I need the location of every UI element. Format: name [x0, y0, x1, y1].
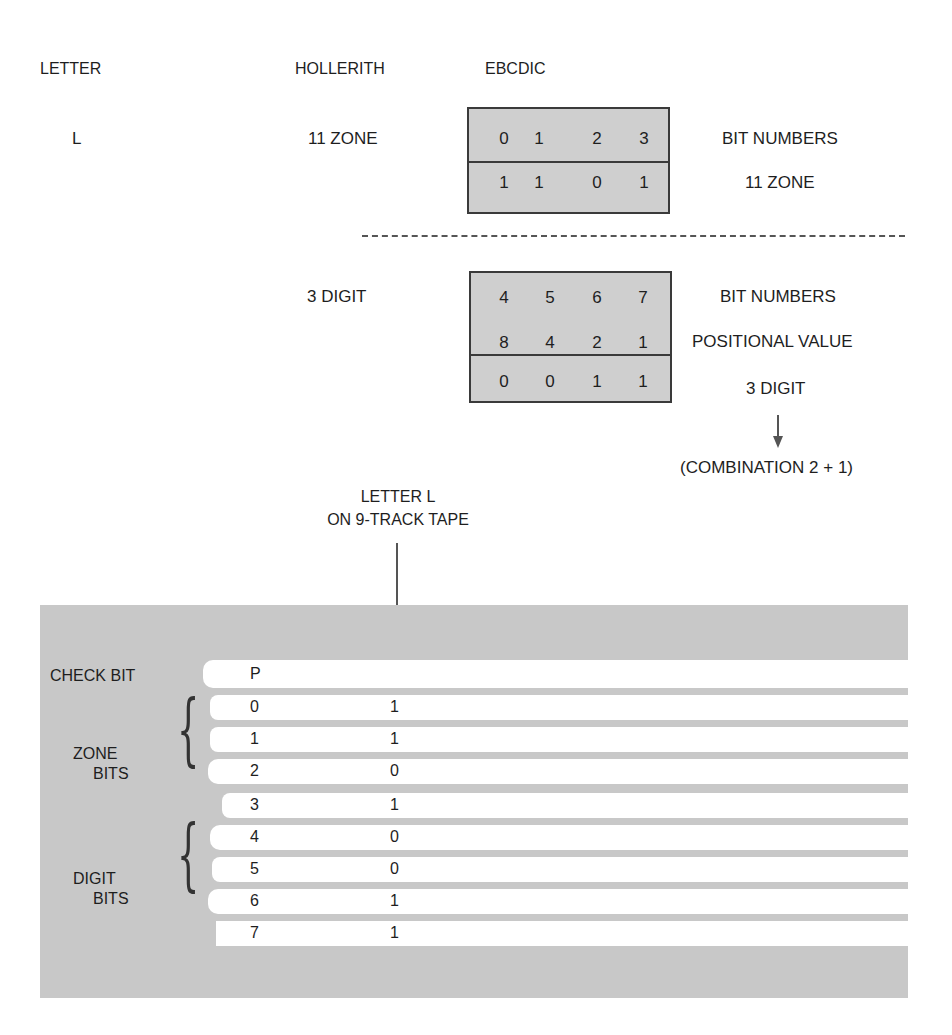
- track-p: P: [203, 660, 908, 688]
- header-letter: LETTER: [40, 60, 101, 78]
- track-bit-value: 1: [390, 892, 399, 910]
- down-arrow-icon: [773, 436, 783, 448]
- header-hollerith: HOLLERITH: [295, 60, 385, 78]
- digit-row-label-bit-numbers: BIT NUMBERS: [720, 287, 836, 307]
- cell: 1: [633, 333, 653, 353]
- hollerith-zone-label: 11 ZONE: [308, 129, 378, 149]
- cell: 3: [634, 129, 654, 149]
- track-bit-number: 1: [250, 730, 259, 748]
- cell: 8: [494, 333, 514, 353]
- box-divider: [471, 354, 670, 356]
- track-1: 1 1: [210, 727, 908, 752]
- cell: 1: [494, 173, 514, 193]
- track-bit-number: 6: [250, 892, 259, 910]
- track-2: 2 0: [208, 759, 908, 784]
- cell: 0: [540, 372, 560, 392]
- cell: 1: [634, 173, 654, 193]
- digit-row-label-positional-value: POSITIONAL VALUE: [692, 332, 853, 352]
- digit-bit-box: 4 5 6 7 8 4 2 1 0 0 1 1: [469, 271, 672, 403]
- digit-bit-values-row: 0 0 1 1: [471, 372, 670, 396]
- cell: 4: [494, 288, 514, 308]
- cell: 1: [529, 129, 549, 149]
- digit-row-label-3-digit: 3 DIGIT: [746, 379, 806, 399]
- hollerith-digit-label: 3 DIGIT: [307, 287, 367, 307]
- header-ebcdic: EBCDIC: [485, 60, 545, 78]
- zone-row-label-bit-numbers: BIT NUMBERS: [722, 129, 838, 149]
- track-bit-value: 0: [390, 762, 399, 780]
- cell: 0: [494, 372, 514, 392]
- zone-bits-label-line2: BITS: [93, 765, 129, 783]
- cell: 4: [540, 333, 560, 353]
- track-bit-number: 4: [250, 828, 259, 846]
- digit-bit-numbers-row: 4 5 6 7: [471, 288, 670, 312]
- cell: 1: [633, 372, 653, 392]
- track-bit-value: 0: [390, 828, 399, 846]
- cell: 0: [494, 129, 514, 149]
- track-bit-number: P: [250, 665, 261, 683]
- track-bit-number: 2: [250, 762, 259, 780]
- track-7: 7 1: [216, 921, 908, 946]
- track-bit-value: 0: [390, 860, 399, 878]
- zone-bit-numbers-row: 0 1 2 3: [469, 129, 668, 153]
- cell: 6: [587, 288, 607, 308]
- track-bit-number: 0: [250, 698, 259, 716]
- digit-bits-label-line2: BITS: [93, 890, 129, 908]
- cell: 1: [587, 372, 607, 392]
- down-arrow-shaft: [777, 415, 779, 437]
- dashed-separator: [362, 235, 905, 237]
- tape-caption-line1: LETTER L: [330, 488, 466, 506]
- zone-bit-box: 0 1 2 3 1 1 0 1: [467, 107, 670, 214]
- tape-caption-line2: ON 9-TRACK TAPE: [300, 511, 496, 529]
- track-3: 3 1: [222, 793, 908, 818]
- letter-value: L: [72, 129, 81, 149]
- cell: 7: [633, 288, 653, 308]
- zone-bits-label-line1: ZONE: [73, 745, 117, 763]
- zone-row-label-11-zone: 11 ZONE: [745, 173, 815, 193]
- digit-bits-brace-icon: {: [177, 815, 199, 893]
- track-bit-number: 7: [250, 924, 259, 942]
- zone-bits-brace-icon: {: [177, 690, 199, 768]
- track-bit-value: 1: [390, 924, 399, 942]
- track-6: 6 1: [208, 889, 908, 914]
- track-4: 4 0: [210, 825, 908, 850]
- track-5: 5 0: [212, 857, 908, 882]
- box-divider: [469, 161, 668, 163]
- cell: 0: [587, 173, 607, 193]
- track-bit-number: 5: [250, 860, 259, 878]
- cell: 2: [587, 333, 607, 353]
- track-bit-value: 1: [390, 796, 399, 814]
- nine-track-tape: CHECK BIT ZONE BITS { DIGIT BITS { P 0 1…: [40, 605, 908, 998]
- cell: 2: [587, 129, 607, 149]
- combination-note: (COMBINATION 2 + 1): [680, 458, 853, 478]
- digit-bits-label-line1: DIGIT: [73, 870, 116, 888]
- track-bit-value: 1: [390, 698, 399, 716]
- track-bit-number: 3: [250, 796, 259, 814]
- track-0: 0 1: [210, 695, 908, 720]
- cell: 1: [529, 173, 549, 193]
- check-bit-label: CHECK BIT: [50, 667, 135, 685]
- track-bit-value: 1: [390, 730, 399, 748]
- cell: 5: [540, 288, 560, 308]
- zone-bit-values-row: 1 1 0 1: [469, 173, 668, 197]
